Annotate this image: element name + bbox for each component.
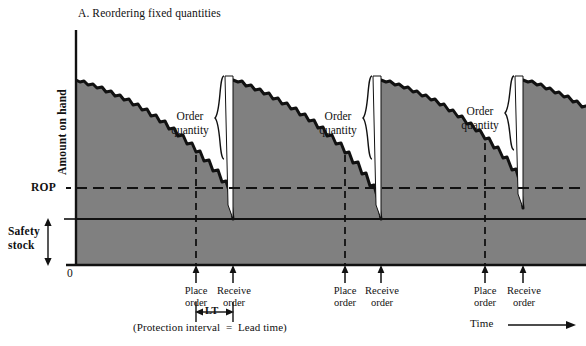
lead-time-label: LT — [205, 305, 219, 316]
figure-caption: (Protection interval = Lead time) — [133, 322, 287, 334]
safety-stock-label-line1: Safety — [8, 225, 40, 237]
rop-label: ROP — [31, 181, 56, 193]
order-quantity-label-1-line1: Order — [166, 110, 214, 124]
order-quantity-label-1-line2: quantity — [160, 124, 220, 138]
receive-order-label-2-line1: Receive — [353, 285, 411, 297]
y-axis-label: Amount on hand — [56, 89, 68, 175]
receive-order-label-3-line1: Receive — [495, 285, 553, 297]
receive-order-label-3-line2: order — [495, 297, 553, 309]
order-quantity-label-3-line1: Order — [456, 105, 504, 119]
order-quantity-label-2-line1: Order — [314, 110, 362, 124]
inventory-fill — [76, 80, 586, 265]
time-axis-arrow — [508, 321, 576, 329]
receive-order-label-2-line2: order — [353, 297, 411, 309]
safety-stock-dimension — [44, 218, 51, 266]
receive-order-label-1-line1: Receive — [205, 285, 263, 297]
order-quantity-brace-1 — [215, 76, 224, 159]
axis-event-arrows — [193, 265, 527, 283]
safety-stock-label-line2: stock — [8, 239, 35, 251]
order-quantity-brace-2 — [363, 76, 372, 159]
order-quantity-label-3-line2: quantity — [450, 119, 510, 133]
order-quantity-label-2-line2: quantity — [308, 124, 368, 138]
inventory-reorder-figure: A. Reordering fixed quantities Amount on… — [0, 0, 586, 346]
origin-label: 0 — [67, 267, 73, 279]
figure-title: A. Reordering fixed quantities — [78, 7, 221, 19]
order-quantity-brace-3 — [505, 76, 514, 150]
x-axis-label: Time — [470, 318, 494, 330]
inventory-area — [76, 80, 586, 265]
